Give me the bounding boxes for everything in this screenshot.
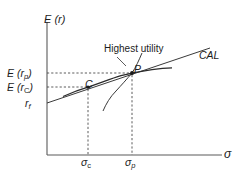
x-tick-label-sigma-p: σp — [125, 157, 136, 170]
y-tick-label-expected-return-p: E (rp) — [7, 68, 32, 81]
series-label-cal: CAL — [199, 50, 219, 61]
highest-utility-leader — [117, 57, 126, 66]
y-axis-label: E (r) — [44, 14, 65, 25]
point-label-p: P — [134, 64, 141, 75]
highest-utility-annotation: Highest utility — [104, 44, 163, 54]
y-tick-label-expected-return-c: E (rC) — [7, 82, 33, 95]
y-tick-label-risk-free-rate: rf — [25, 98, 31, 111]
x-axis-label: σ — [224, 148, 231, 160]
figure-canvas — [0, 0, 238, 175]
figure-container: E (r) σ E (rp) E (rC) rf σc σp C P Highe… — [0, 0, 238, 175]
capital-allocation-line — [47, 48, 210, 103]
x-tick-label-sigma-c: σc — [81, 157, 91, 170]
point-label-c: C — [85, 79, 93, 90]
